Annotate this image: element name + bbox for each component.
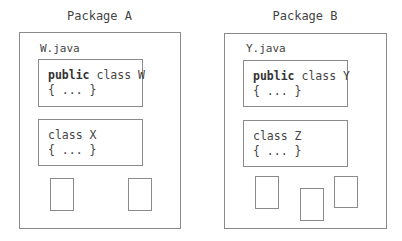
class-w-code: public class W { ... } [39, 60, 142, 98]
class-x-box: class X { ... } [38, 119, 143, 166]
package-b-small-box-2 [300, 188, 324, 221]
class-y-code: public class Y { ... } [244, 61, 347, 99]
package-a-small-box-1 [50, 178, 74, 211]
class-z-box: class Z { ... } [243, 120, 348, 167]
class-x-body: { ... } [48, 143, 96, 157]
package-b-small-box-1 [255, 176, 279, 209]
class-x-code: class X { ... } [39, 120, 142, 158]
class-z-code: class Z { ... } [244, 121, 347, 159]
class-w-modifier: public [48, 68, 90, 82]
class-y-modifier: public [253, 69, 295, 83]
file-y-java-label: Y.java [246, 42, 286, 55]
class-z-decl: class Z [253, 129, 301, 143]
class-z-body: { ... } [253, 144, 301, 158]
file-w-java-label: W.java [40, 42, 80, 55]
package-a-label: Package A [19, 9, 180, 23]
class-w-decl: class W [90, 68, 145, 82]
class-w-box: public class W { ... } [38, 59, 143, 107]
class-y-decl: class Y [295, 69, 350, 83]
class-w-body: { ... } [48, 83, 96, 97]
package-a-small-box-2 [128, 178, 152, 211]
class-x-decl: class X [48, 128, 96, 142]
class-y-box: public class Y { ... } [243, 60, 348, 107]
package-b-label: Package B [224, 9, 386, 23]
class-y-body: { ... } [253, 84, 301, 98]
package-b-small-box-3 [334, 176, 358, 208]
